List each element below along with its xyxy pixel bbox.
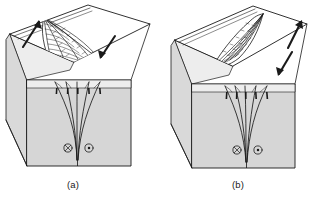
right-block-motion-arrow-b xyxy=(276,52,292,76)
front-face-top-slab-b xyxy=(192,84,295,92)
block-diagram-b xyxy=(155,0,311,180)
panel-caption-b: (b) xyxy=(232,179,244,190)
figure-root: (a) (b) xyxy=(0,0,311,201)
block-right-edge-b xyxy=(295,24,307,84)
block-diagram-a xyxy=(0,0,155,180)
front-face-top-slab-a xyxy=(27,80,131,88)
block-front-face-b xyxy=(192,84,295,168)
panel-caption-a: (a) xyxy=(67,179,79,190)
